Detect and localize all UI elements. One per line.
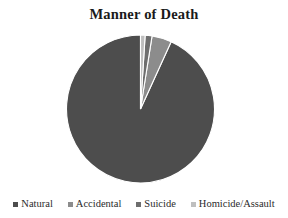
pie-chart-figure: Manner of Death NaturalAccidentalSuicide… — [0, 0, 288, 218]
legend-swatch-icon — [68, 202, 73, 207]
pie-plot-area — [66, 34, 215, 184]
legend-swatch-icon — [136, 202, 141, 207]
legend-swatch-icon — [191, 202, 196, 207]
page-title: Manner of Death — [0, 6, 288, 23]
legend-item-label: Natural — [21, 198, 53, 210]
legend-item[interactable]: Natural — [13, 198, 53, 210]
legend-swatch-icon — [13, 202, 18, 207]
pie-slice-group — [67, 35, 215, 183]
legend-item-label: Suicide — [144, 198, 176, 210]
legend-item[interactable]: Homicide/Assault — [191, 198, 275, 210]
legend-item-label: Accidental — [76, 198, 121, 210]
chart-legend: NaturalAccidentalSuicideHomicide/Assault — [0, 195, 288, 213]
pie-svg — [66, 34, 215, 184]
legend-item-label: Homicide/Assault — [199, 198, 275, 210]
legend-item[interactable]: Accidental — [68, 198, 121, 210]
legend-item[interactable]: Suicide — [136, 198, 176, 210]
